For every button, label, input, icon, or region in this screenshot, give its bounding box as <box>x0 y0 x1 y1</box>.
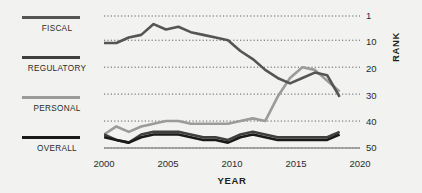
chart-plot-area <box>104 8 360 156</box>
y-tick-1: 1 <box>366 10 388 21</box>
x-axis-title: YEAR <box>104 175 360 186</box>
legend-label-personal: PERSONAL <box>14 104 100 113</box>
legend-swatch-regulatory <box>22 56 80 59</box>
x-tick-2015: 2015 <box>276 158 316 169</box>
x-tick-2005: 2005 <box>148 158 188 169</box>
y-axis-title: RANK <box>390 32 401 62</box>
y-tick-50: 50 <box>366 142 388 153</box>
legend-label-fiscal: FISCAL <box>14 24 100 33</box>
legend-swatch-personal <box>22 96 80 99</box>
chart-legend: FISCAL REGULATORY PERSONAL OVERALL <box>14 12 100 164</box>
x-tick-2010: 2010 <box>212 158 252 169</box>
legend-label-regulatory: REGULATORY <box>14 64 100 73</box>
legend-label-overall: OVERALL <box>14 144 100 153</box>
series-line-fiscal <box>104 24 340 97</box>
x-tick-2000: 2000 <box>84 158 124 169</box>
y-tick-40: 40 <box>366 116 388 127</box>
y-tick-30: 30 <box>366 90 388 101</box>
y-tick-10: 10 <box>366 36 388 47</box>
legend-item-fiscal[interactable]: FISCAL <box>14 12 100 46</box>
chart-gridlines <box>104 16 360 148</box>
chart-figure: FISCAL REGULATORY PERSONAL OVERALL 1 10 … <box>0 0 422 193</box>
x-tick-2020: 2020 <box>340 158 380 169</box>
chart-series-layer <box>104 24 340 143</box>
legend-item-personal[interactable]: PERSONAL <box>14 92 100 126</box>
legend-swatch-overall <box>22 136 80 139</box>
chart-canvas <box>104 8 360 156</box>
y-tick-20: 20 <box>366 63 388 74</box>
legend-item-regulatory[interactable]: REGULATORY <box>14 52 100 86</box>
legend-swatch-fiscal <box>22 16 80 19</box>
